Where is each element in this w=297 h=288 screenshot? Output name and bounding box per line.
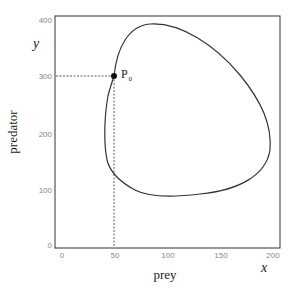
x-tick: 200: [266, 251, 280, 260]
y-tick: 300: [39, 72, 53, 81]
plot-frame: [55, 16, 280, 248]
y-variable-label: y: [31, 36, 40, 51]
p0-subscript: 0: [129, 75, 133, 83]
phase-plot: 0 100 200 300 400 0 50 100 150 200 y x p…: [0, 0, 297, 288]
x-variable-label: x: [260, 260, 268, 275]
x-axis-title: prey: [153, 267, 177, 282]
y-tick: 200: [39, 130, 53, 139]
y-tick: 400: [39, 16, 53, 25]
y-tick: 0: [48, 241, 53, 250]
x-tick: 50: [111, 251, 120, 260]
x-tick: 0: [60, 251, 65, 260]
x-tick: 100: [161, 251, 175, 260]
p0-marker: [111, 73, 117, 79]
p0-label: P: [121, 67, 128, 81]
x-axis-ticks: 0 50 100 150 200: [60, 251, 280, 260]
orbit-curve: [105, 24, 270, 196]
y-axis-title: predator: [5, 110, 20, 154]
y-axis-ticks: 0 100 200 300 400: [39, 16, 53, 250]
x-tick: 150: [214, 251, 228, 260]
y-tick: 100: [39, 186, 53, 195]
